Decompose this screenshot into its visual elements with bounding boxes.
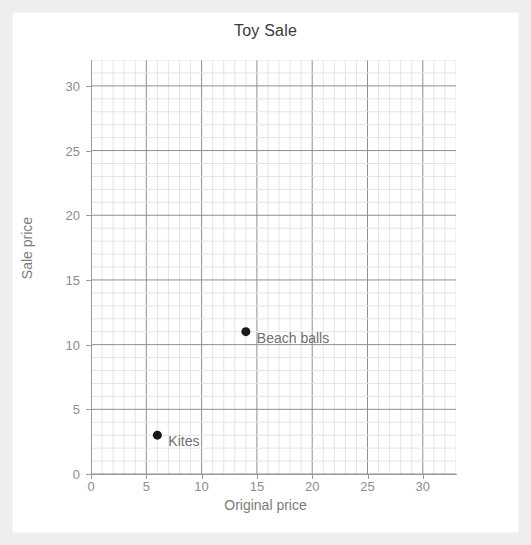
x-tick-label: 30 — [416, 479, 430, 494]
data-point-label: Beach balls — [257, 330, 329, 346]
chart-page: Toy Sale 051015202530051015202530 Beach … — [0, 0, 531, 545]
y-tick-label: 10 — [48, 337, 80, 352]
y-tick-mark — [86, 86, 91, 87]
data-point — [241, 327, 250, 336]
y-axis-label: Sale price — [19, 188, 35, 308]
x-tick-label: 15 — [250, 479, 264, 494]
plot-area — [91, 60, 456, 474]
x-tick-label: 10 — [194, 479, 208, 494]
x-tick-label: 20 — [305, 479, 319, 494]
y-tick-mark — [86, 215, 91, 216]
data-point-label: Kites — [168, 433, 199, 449]
y-tick-label: 0 — [48, 467, 80, 482]
data-points-layer — [91, 60, 456, 474]
x-tick-label: 25 — [360, 479, 374, 494]
y-tick-label: 30 — [48, 78, 80, 93]
x-tick-label: 0 — [87, 479, 94, 494]
y-tick-mark — [86, 151, 91, 152]
data-point — [153, 431, 162, 440]
y-tick-label: 5 — [48, 402, 80, 417]
y-tick-mark — [86, 474, 91, 475]
x-tick-label: 5 — [143, 479, 150, 494]
y-axis-line — [91, 60, 92, 475]
y-tick-label: 20 — [48, 208, 80, 223]
y-tick-mark — [86, 280, 91, 281]
y-tick-label: 15 — [48, 272, 80, 287]
y-tick-label: 25 — [48, 143, 80, 158]
x-axis-label: Original price — [0, 497, 531, 513]
y-tick-mark — [86, 409, 91, 410]
chart-title: Toy Sale — [0, 22, 531, 40]
y-tick-mark — [86, 345, 91, 346]
